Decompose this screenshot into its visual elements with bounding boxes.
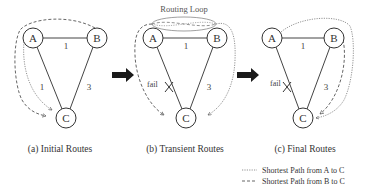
svg-text:C: C [299,112,306,124]
path-b-to-c [320,40,344,114]
svg-text:C: C [62,112,69,124]
node-c: C [176,108,196,128]
svg-text:B: B [330,32,337,44]
path-a-to-c [24,42,52,110]
legend-item-a-to-c: Shortest Path from A to C [242,166,344,175]
panel-final-routes: 1 3 fail A B C (c) Final Routes [262,18,353,155]
legend-label: Shortest Path from B to C [262,177,345,186]
caption-c: (c) Final Routes [274,144,336,155]
weight-a-b: 1 [184,41,189,51]
node-b: B [207,28,227,48]
node-c: C [293,108,313,128]
edge-b-c [70,47,93,109]
svg-text:B: B [213,32,220,44]
routing-diagram: 1 1 3 A B C (a) Initial Routes Routing L… [0,0,368,190]
legend-label: Shortest Path from A to C [262,166,344,175]
panel-transient-routes: Routing Loop 1 3 fail A B C (b) Transien… [135,4,235,155]
svg-text:A: A [29,32,37,44]
svg-text:C: C [182,112,189,124]
routing-loop-label: Routing Loop [160,4,207,14]
failure-x-icon [283,82,291,92]
node-b: B [324,28,344,48]
weight-b-c: 3 [324,82,329,92]
transition-arrow-icon [237,68,259,82]
svg-text:B: B [93,32,100,44]
transition-arrow-icon [112,68,134,82]
panel-initial-routes: 1 1 3 A B C (a) Initial Routes [15,19,107,155]
loop-cross-dotted [152,22,216,25]
failure-x-icon [165,82,173,92]
edge-b-c [190,47,213,109]
caption-b: (b) Transient Routes [146,144,224,155]
node-a: A [262,28,282,48]
edge-a-c-failed [157,47,182,109]
svg-text:A: A [149,32,157,44]
node-a: A [143,28,163,48]
fail-label: fail [270,79,281,88]
edge-a-c-failed [276,47,299,109]
weight-b-c: 3 [87,82,92,92]
weight-a-b: 1 [301,41,306,51]
legend: Shortest Path from A to C Shortest Path … [242,166,345,186]
weight-a-c: 1 [40,82,45,92]
caption-a: (a) Initial Routes [28,144,93,155]
weight-a-b: 1 [64,41,69,51]
node-b: B [87,28,107,48]
node-c: C [56,108,76,128]
edge-b-c [307,47,330,109]
svg-text:A: A [268,32,276,44]
fail-label: fail [147,80,158,89]
weight-b-c: 3 [207,82,212,92]
node-a: A [23,28,43,48]
edge-a-c [37,47,62,109]
legend-item-b-to-c: Shortest Path from B to C [242,177,345,186]
